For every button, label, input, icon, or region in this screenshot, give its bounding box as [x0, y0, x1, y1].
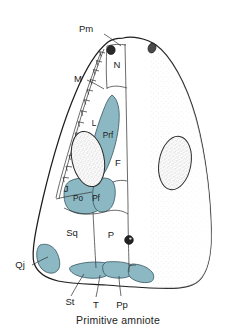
label-p: P: [108, 229, 114, 240]
suture-f-pf: [113, 180, 127, 182]
suture-n-f: [107, 86, 127, 88]
label-m: M: [74, 73, 82, 84]
leader-pm: [104, 34, 121, 46]
label-pm: Pm: [79, 23, 93, 34]
naris-left: [107, 45, 115, 54]
label-qj: Qj: [15, 259, 25, 270]
label-t: T: [93, 299, 99, 310]
label-n: N: [114, 59, 121, 70]
label-j: J: [64, 183, 69, 194]
label-l: L: [92, 119, 97, 128]
label-pp: Pp: [116, 299, 128, 310]
bone-qj: [37, 244, 60, 273]
suture-nasal-left: [106, 46, 107, 89]
figure-root: Pm N M L Prf F J Po Pf Sq P Qj St T Pp P…: [0, 0, 236, 334]
bone-pp: [128, 264, 153, 283]
label-f: F: [115, 157, 121, 168]
leader-st: [71, 274, 84, 296]
skull-outline-group: [33, 36, 212, 292]
label-sq: Sq: [66, 227, 78, 238]
label-st: St: [66, 296, 75, 307]
suture-sq-p: [93, 212, 96, 268]
label-pf: Pf: [92, 194, 100, 203]
leader-m: [87, 80, 104, 89]
label-prf: Prf: [103, 131, 114, 140]
figure-caption: Primitive amniote: [0, 314, 236, 326]
pineal-foramen: [125, 236, 134, 245]
label-po: Po: [73, 194, 83, 203]
skull-diagram: Pm N M L Prf F J Po Pf Sq P Qj St T Pp: [0, 0, 236, 334]
